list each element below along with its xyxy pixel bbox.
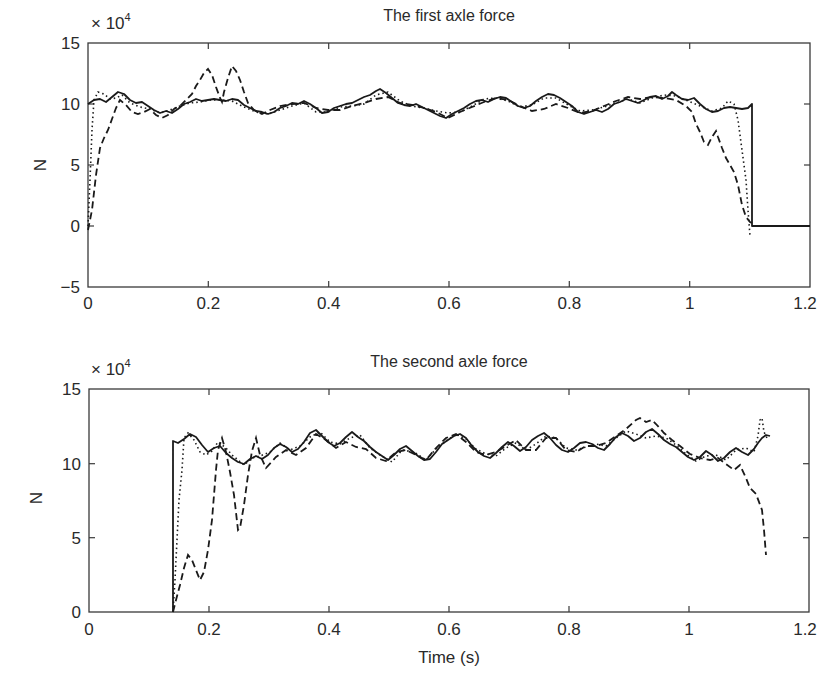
y-axis-label: N bbox=[27, 492, 46, 504]
x-ticks bbox=[209, 389, 689, 612]
svg-text:0: 0 bbox=[72, 603, 81, 622]
x-tick-labels: 0 0.2 0.4 0.6 0.8 1 1.2 bbox=[84, 620, 817, 639]
svg-text:15: 15 bbox=[62, 380, 81, 399]
y-tick-labels: 15 10 5 0 bbox=[62, 380, 81, 622]
y-ticks bbox=[88, 104, 810, 226]
y-ticks bbox=[89, 464, 809, 538]
series-solid bbox=[173, 429, 770, 612]
svg-text:0.4: 0.4 bbox=[317, 620, 341, 639]
svg-text:0: 0 bbox=[71, 217, 80, 236]
series-dotted bbox=[88, 92, 750, 236]
svg-text:0: 0 bbox=[84, 620, 93, 639]
plot-second-axle-force: The second axle force × 104 0 0.2 0.4 0.… bbox=[27, 353, 817, 667]
series-dashed bbox=[88, 66, 752, 230]
svg-text:0.6: 0.6 bbox=[437, 294, 461, 313]
plot-first-axle-force: The first axle force × 104 0 0.2 0.4 0.6… bbox=[31, 7, 817, 313]
svg-text:1.2: 1.2 bbox=[793, 294, 817, 313]
svg-text:1: 1 bbox=[684, 620, 693, 639]
x-axis-label: Time (s) bbox=[418, 648, 480, 667]
y-multiplier: × 104 bbox=[91, 11, 131, 33]
svg-text:0.8: 0.8 bbox=[557, 620, 581, 639]
axes-frame bbox=[88, 43, 810, 287]
svg-text:0: 0 bbox=[83, 294, 92, 313]
svg-text:1: 1 bbox=[685, 294, 694, 313]
y-axis-label: N bbox=[31, 159, 50, 171]
svg-text:10: 10 bbox=[61, 95, 80, 114]
x-ticks bbox=[208, 43, 689, 287]
svg-text:1.2: 1.2 bbox=[793, 620, 817, 639]
plot-title: The first axle force bbox=[383, 7, 515, 24]
y-multiplier: × 104 bbox=[91, 357, 131, 379]
figure: The first axle force × 104 0 0.2 0.4 0.6… bbox=[0, 0, 839, 692]
series-solid bbox=[88, 89, 810, 226]
svg-text:10: 10 bbox=[62, 455, 81, 474]
svg-text:0.4: 0.4 bbox=[317, 294, 341, 313]
plot-title: The second axle force bbox=[370, 353, 528, 370]
svg-text:−5: −5 bbox=[61, 278, 80, 297]
svg-text:15: 15 bbox=[61, 34, 80, 53]
svg-text:0.8: 0.8 bbox=[557, 294, 581, 313]
svg-text:0.6: 0.6 bbox=[437, 620, 461, 639]
svg-text:5: 5 bbox=[72, 529, 81, 548]
svg-text:5: 5 bbox=[71, 156, 80, 175]
y-tick-labels: 15 10 5 0 −5 bbox=[61, 34, 80, 297]
svg-text:0.2: 0.2 bbox=[197, 620, 221, 639]
x-tick-labels: 0 0.2 0.4 0.6 0.8 1 1.2 bbox=[83, 294, 817, 313]
svg-text:0.2: 0.2 bbox=[196, 294, 220, 313]
axes-frame bbox=[89, 389, 809, 612]
